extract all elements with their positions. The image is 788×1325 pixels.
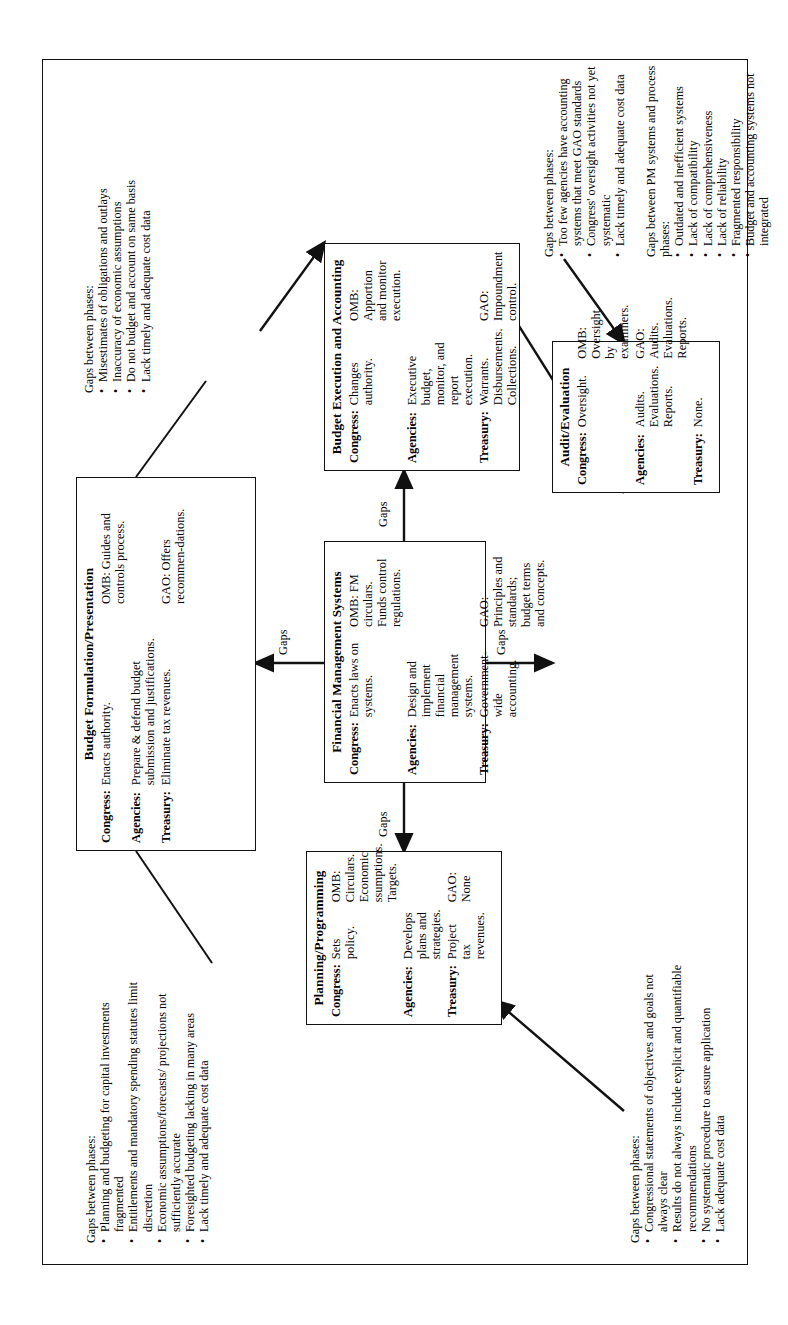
- gap-item: Entitlements and mandatory spending stat…: [126, 963, 154, 1243]
- box-row: Treasury: Eliminate tax revenues. GAO: O…: [159, 485, 189, 843]
- figure-page: Gaps Gaps Gaps Gaps Planning/Programming…: [0, 0, 788, 1325]
- gap-items: Outdated and inefficient systems Lack of…: [672, 61, 771, 257]
- connector-formulation-to-gaps: [136, 851, 212, 963]
- box-row: Treasury: Government-wide accounting. GA…: [477, 549, 549, 775]
- gap-item: No systematic procedure to assure applic…: [699, 943, 713, 1243]
- box-title: Budget Execution and Accounting: [330, 251, 345, 463]
- box-row: Agencies: Audits. Evaluations. Reports. …: [633, 297, 691, 485]
- row-value-1: Enacts laws on systems.: [347, 627, 405, 717]
- box-row: Agencies: Design and implement financial…: [405, 549, 477, 775]
- gap-list-heading: Gaps between phases:: [84, 963, 98, 1243]
- row-label: Agencies:: [401, 959, 445, 1017]
- diagram-canvas: Gaps Gaps Gaps Gaps Planning/Programming…: [24, 43, 764, 1283]
- gap-list-heading: Gaps between phases:: [542, 61, 556, 257]
- connector-formulation-to-executiongaps: [136, 381, 206, 477]
- row-value-2: OMB: Circulars. Economic ssumptions. Tar…: [329, 843, 401, 902]
- gap-item: Lack timely and adequate cost data: [613, 61, 627, 257]
- gap-item: Congressional statements of objectives a…: [642, 943, 670, 1243]
- gap-item: Lack of comprehensiveness: [701, 61, 715, 257]
- gap-item: Do not budget and account on same basis: [124, 105, 138, 393]
- box-budget-execution-accounting[interactable]: Budget Execution and Accounting Congress…: [324, 243, 520, 471]
- row-value-1: Sets policy.: [329, 902, 401, 959]
- gap-item: Lack timely and adequate cost data: [139, 105, 153, 393]
- row-label: Congress:: [575, 427, 633, 485]
- row-label: Treasury:: [477, 405, 521, 463]
- row-label: Treasury:: [477, 717, 549, 775]
- row-value-2: OMB: Oversight by examiners.: [575, 297, 633, 359]
- box-title: Planning/Programming: [312, 859, 327, 1017]
- row-label: Agencies:: [405, 717, 477, 775]
- row-value-1: Eliminate tax revenues.: [159, 603, 189, 784]
- box-row: Congress: Oversight. OMB: Oversight by e…: [575, 297, 633, 485]
- gap-items: Too few agencies have accounting systems…: [556, 61, 627, 257]
- box-planning-programming[interactable]: Planning/Programming Congress: Sets poli…: [306, 851, 502, 1025]
- box-row: Congress: Enacts laws on systems. OMB: F…: [347, 549, 405, 775]
- row-value-2: [129, 485, 159, 604]
- gaps-label-right: Gaps: [376, 501, 391, 526]
- gap-list-formulation: Gaps between phases: Planning and budget…: [84, 963, 211, 1243]
- gap-list-heading: Gaps between phases:: [628, 943, 642, 1243]
- row-label: Congress:: [347, 717, 405, 775]
- gaps-label-top: Gaps: [276, 629, 291, 654]
- gap-items: Misestimates of obligations and outlays …: [96, 105, 153, 393]
- row-label: Agencies:: [633, 427, 691, 485]
- row-value-1: Changes authority.: [347, 320, 405, 404]
- row-value-2: GAO: Principles and standards; budget te…: [477, 549, 549, 627]
- box-financial-management-systems[interactable]: Financial Management Systems Congress: E…: [324, 541, 486, 783]
- row-value-2: GAO: Impoundment control.: [477, 251, 521, 321]
- box-row: Treasury: Project tax revenues. GAO: Non…: [445, 843, 489, 1017]
- row-label: Treasury:: [159, 785, 189, 843]
- row-value-1: Executive budget, monitor, and report ex…: [405, 320, 477, 404]
- row-value-2: GAO: Audits. Evaluations. Reports.: [633, 297, 691, 359]
- connector-planninggaps-to-planning: [496, 1001, 624, 1111]
- box-title: Budget Formulation/Presentation: [82, 485, 97, 843]
- row-value-1: Project tax revenues.: [445, 902, 489, 959]
- row-value-1: Oversight.: [575, 358, 633, 427]
- gap-item: Lack of reliability: [715, 61, 729, 257]
- gap-item: Planning and budgeting for capital inves…: [98, 963, 126, 1243]
- box-row: Agencies: Prepare & defend budget submis…: [129, 485, 159, 843]
- box-budget-formulation-presentation[interactable]: Budget Formulation/Presentation Congress…: [76, 477, 256, 851]
- row-value-1: Develops plans and strategies.: [401, 902, 445, 959]
- row-value-2: OMB: FM circulars. Funds control regulat…: [347, 549, 405, 627]
- row-label: Congress:: [99, 785, 129, 843]
- gap-list-heading: Gaps between PM systems and process phas…: [644, 61, 672, 257]
- box-row: Treasury: Warrants. Disbursements. Colle…: [477, 251, 521, 463]
- row-value-1: Prepare & defend budget submission and j…: [129, 603, 159, 784]
- gap-item: Outdated and inefficient systems: [672, 61, 686, 257]
- box-row: Agencies: Executive budget, monitor, and…: [405, 251, 477, 463]
- gap-items: Congressional statements of objectives a…: [642, 943, 727, 1243]
- row-value-1: None.: [691, 358, 707, 427]
- gap-item: Foresighted budgeting lacking in many ar…: [183, 963, 197, 1243]
- box-row: Agencies: Develops plans and strategies.: [401, 843, 445, 1017]
- box-row: Congress: Enacts authority. OMB: Guides …: [99, 485, 129, 843]
- row-value-2: [691, 297, 707, 359]
- box-row: Treasury: None.: [691, 297, 707, 485]
- row-value-2: [405, 251, 477, 321]
- gap-items: Planning and budgeting for capital inves…: [98, 963, 211, 1243]
- gap-item: Fragmented responsibility: [729, 61, 743, 257]
- gap-item: Lack of compatibility: [686, 61, 700, 257]
- row-value-2: [405, 549, 477, 627]
- gaps-label-left: Gaps: [376, 811, 391, 836]
- gap-item: Budget and accounting systems not integr…: [743, 61, 771, 257]
- gap-list-pm-systems: Gaps between PM systems and process phas…: [644, 61, 771, 257]
- connector-executiongaps-to-execution: [260, 243, 324, 331]
- gap-item: Lack timely and adequate cost data: [197, 963, 211, 1243]
- row-value-1: Audits. Evaluations. Reports.: [633, 358, 691, 427]
- box-title: Financial Management Systems: [330, 549, 345, 775]
- gap-item: Results do not always include explicit a…: [670, 943, 698, 1243]
- row-value-1: Government-wide accounting.: [477, 627, 549, 717]
- row-label: Treasury:: [691, 427, 707, 485]
- row-value-1: Warrants. Disbursements. Collections.: [477, 320, 521, 404]
- box-row: Congress: Sets policy. OMB: Circulars. E…: [329, 843, 401, 1017]
- row-value-2: OMB: Apportion and monitor execution.: [347, 251, 405, 321]
- gap-list-heading: Gaps between phases:: [82, 105, 96, 393]
- box-title: Audit/Evaluation: [558, 349, 573, 485]
- box-audit-evaluation[interactable]: Audit/Evaluation Congress: Oversight. OM…: [552, 341, 720, 493]
- row-label: Agencies:: [129, 785, 159, 843]
- gap-item: Too few agencies have accounting systems…: [556, 61, 584, 257]
- row-label: Congress:: [329, 959, 401, 1017]
- gap-item: Inaccuracy of economic assumptions: [110, 105, 124, 393]
- row-label: Congress:: [347, 405, 405, 463]
